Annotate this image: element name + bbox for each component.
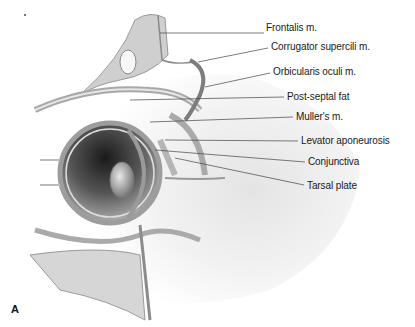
label-tarsal-plate: Tarsal plate: [307, 180, 357, 191]
orbital-floor: [30, 250, 145, 320]
label-corrugator: Corrugator supercili m.: [271, 41, 370, 52]
label-mullers: Muller's m.: [296, 111, 343, 122]
label-frontalis: Frontalis m.: [266, 22, 317, 33]
label-post-septal-fat: Post-septal fat: [287, 91, 349, 102]
panel-letter: A: [11, 303, 19, 315]
label-levator-aponeurosis: Levator aponeurosis: [301, 135, 390, 146]
lens: [110, 162, 134, 198]
label-orbicularis: Orbicularis oculi m.: [273, 66, 356, 77]
label-conjunctiva: Conjunctiva: [308, 156, 359, 167]
